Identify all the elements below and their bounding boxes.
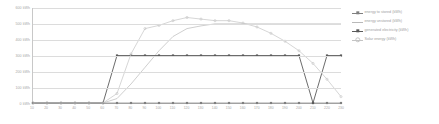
data-point-marker (144, 102, 146, 104)
x-tick-label: 130 (198, 106, 204, 110)
x-tick-label: 220 (324, 106, 330, 110)
gridline (33, 56, 341, 57)
x-tick-label: 100 (156, 106, 162, 110)
legend-swatch-icon (352, 18, 363, 25)
series-4 (32, 16, 342, 104)
data-point-marker (172, 102, 174, 104)
data-point-marker (242, 102, 244, 104)
series-line (33, 24, 341, 103)
y-tick-label: 300 kWh (15, 54, 30, 58)
legend-swatch-icon (352, 9, 363, 16)
x-tick-label: 60 (100, 106, 104, 110)
y-tick-label: 500 kWh (15, 22, 30, 26)
legend-label: Solar energy (kWh) (365, 37, 397, 42)
y-tick-label: 0 kWh (20, 102, 30, 106)
y-tick-label: 100 kWh (15, 86, 30, 90)
legend-label: energy unstored (kWh) (365, 19, 403, 24)
y-tick-label: 200 kWh (15, 70, 30, 74)
data-point-marker (186, 102, 188, 104)
data-point-marker (270, 102, 272, 104)
x-tick-label: 150 (226, 106, 232, 110)
x-tick-label: 110 (170, 106, 175, 110)
data-point-marker (130, 102, 132, 104)
y-tick-label: 600 kWh (15, 6, 30, 10)
legend-label: generated electricity (kWh) (365, 28, 409, 33)
legend-swatch-icon (352, 27, 363, 34)
data-point-marker (284, 102, 286, 104)
data-point-marker (298, 102, 300, 104)
legend-item[interactable]: Solar energy (kWh) (352, 35, 438, 44)
series-2 (33, 24, 341, 103)
data-point-marker (200, 102, 202, 104)
x-tick-label: 40 (72, 106, 76, 110)
gridline (33, 8, 341, 9)
data-point-marker (158, 102, 160, 104)
gridline (33, 88, 341, 89)
legend-item[interactable]: energy to stored (kWh) (352, 8, 438, 17)
x-tick-label: 20 (44, 106, 48, 110)
legend-swatch-icon (352, 36, 363, 43)
data-point-marker (312, 102, 314, 104)
x-tick-label: 70 (114, 106, 118, 110)
x-tick-label: 190 (282, 106, 288, 110)
legend-item[interactable]: generated electricity (kWh) (352, 26, 438, 35)
data-point-marker (214, 102, 216, 104)
y-axis: 600 kWh500 kWh400 kWh300 kWh200 kWh100 k… (0, 0, 32, 124)
series-line (33, 18, 341, 104)
x-tick-label: 180 (268, 106, 274, 110)
x-tick-label: 90 (142, 106, 146, 110)
gridline (33, 40, 341, 41)
plot-area (32, 8, 341, 104)
data-point-marker (340, 102, 342, 104)
gridline (33, 72, 341, 73)
gridline (33, 24, 341, 25)
x-tick-label: 10 (30, 106, 34, 110)
line-chart: 600 kWh500 kWh400 kWh300 kWh200 kWh100 k… (0, 0, 439, 124)
x-tick-label: 50 (86, 106, 90, 110)
chart-legend: energy to stored (kWh)energy unstored (k… (352, 8, 438, 44)
series-3 (32, 54, 342, 104)
y-tick-label: 400 kWh (15, 38, 30, 42)
legend-item[interactable]: energy unstored (kWh) (352, 17, 438, 26)
data-point-marker (116, 102, 118, 104)
x-tick-label: 30 (58, 106, 62, 110)
x-tick-label: 230 (338, 106, 344, 110)
x-tick-label: 120 (184, 106, 190, 110)
x-tick-label: 200 (296, 106, 302, 110)
data-point-marker (256, 102, 258, 104)
data-point-marker (228, 102, 230, 104)
data-point-marker (326, 102, 328, 104)
legend-label: energy to stored (kWh) (365, 10, 403, 15)
x-tick-label: 210 (310, 106, 316, 110)
x-tick-label: 170 (254, 106, 260, 110)
x-tick-label: 160 (240, 106, 246, 110)
x-tick-label: 140 (212, 106, 218, 110)
x-axis: 1020304050607080901001101201301401501601… (32, 106, 341, 118)
x-tick-label: 80 (128, 106, 132, 110)
series-line (33, 56, 341, 104)
